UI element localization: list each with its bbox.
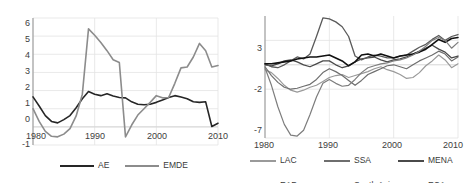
legend-label: AE bbox=[98, 160, 109, 171]
right-ytick-3: 3 bbox=[248, 43, 262, 53]
legend-swatch-icon bbox=[250, 160, 276, 162]
legend-item-lac[interactable]: LAC bbox=[250, 155, 297, 166]
legend-item-ae[interactable]: AE bbox=[60, 160, 109, 171]
legend-label: ECA bbox=[428, 180, 445, 183]
right-ytick-neg7: -7 bbox=[244, 125, 262, 135]
legend-item-emde[interactable]: EMDE bbox=[125, 160, 188, 171]
two-panel-line-chart-figure: 6 5 4 3 2 1 0 -1 1980 1990 2000 2010 AEE… bbox=[0, 0, 473, 183]
right-chart-legend: LACSSAMENA EAPSouth AsiaECA bbox=[250, 155, 470, 179]
left-xtick-2010: 2010 bbox=[202, 131, 234, 141]
left-ytick-4: 4 bbox=[18, 50, 30, 60]
left-xtick-1980: 1980 bbox=[20, 131, 52, 141]
legend-label: South Asia bbox=[354, 180, 395, 183]
right-xtick-1990: 1990 bbox=[312, 140, 344, 150]
left-chart-panel: 6 5 4 3 2 1 0 -1 1980 1990 2000 2010 AEE… bbox=[0, 0, 236, 183]
right-ytick-neg2: -2 bbox=[244, 84, 262, 94]
legend-item-ssa[interactable]: SSA bbox=[324, 155, 371, 166]
left-ytick-5: 5 bbox=[18, 34, 30, 44]
legend-label: LAC bbox=[280, 155, 297, 166]
left-xtick-2000: 2000 bbox=[141, 131, 173, 141]
legend-swatch-icon bbox=[125, 165, 159, 167]
left-ytick-1: 1 bbox=[18, 98, 30, 108]
legend-swatch-icon bbox=[398, 160, 424, 162]
right-xtick-1980: 1980 bbox=[248, 140, 280, 150]
legend-item-eca[interactable]: ECA bbox=[398, 180, 445, 183]
legend-swatch-icon bbox=[324, 160, 350, 162]
left-xtick-1990: 1990 bbox=[79, 131, 111, 141]
legend-label: MENA bbox=[428, 155, 453, 166]
legend-item-mena[interactable]: MENA bbox=[398, 155, 453, 166]
right-xtick-2010: 2010 bbox=[437, 140, 469, 150]
legend-label: EMDE bbox=[163, 160, 188, 171]
legend-swatch-icon bbox=[60, 165, 94, 167]
left-chart-plot bbox=[0, 0, 236, 183]
right-xtick-2000: 2000 bbox=[376, 140, 408, 150]
series-line-ssa bbox=[265, 51, 458, 89]
left-ytick-0: 0 bbox=[18, 114, 30, 124]
legend-item-eap[interactable]: EAP bbox=[250, 180, 297, 183]
legend-label: SSA bbox=[354, 155, 371, 166]
right-chart-panel: 3 -2 -7 1980 1990 2000 2010 LACSSAMENA E… bbox=[236, 0, 473, 183]
left-ytick-2: 2 bbox=[18, 82, 30, 92]
left-chart-legend: AEEMDE bbox=[60, 160, 188, 171]
legend-label: EAP bbox=[280, 180, 297, 183]
left-ytick-3: 3 bbox=[18, 66, 30, 76]
left-ytick-6: 6 bbox=[18, 18, 30, 28]
legend-item-south-asia[interactable]: South Asia bbox=[324, 180, 395, 183]
series-line-eca bbox=[265, 37, 458, 136]
